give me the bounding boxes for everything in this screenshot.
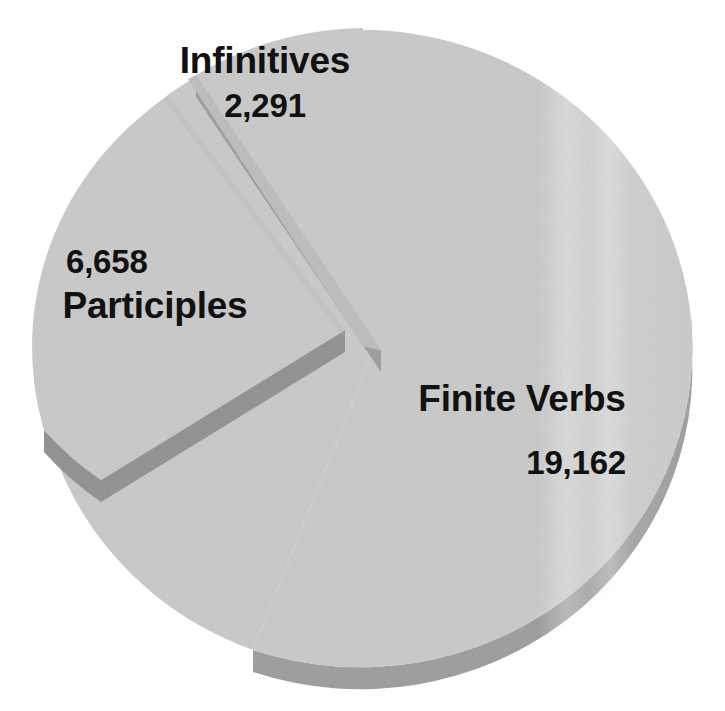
slice-label-finite-verbs-name: Finite Verbs	[400, 380, 644, 419]
slice-label-participles: 6,658 Participles	[40, 245, 270, 325]
pie-chart-graphic	[0, 0, 725, 711]
pie-chart-figure: Infinitives 2,291 6,658 Participles Fini…	[0, 0, 725, 711]
slice-label-participles-name: Participles	[40, 287, 270, 326]
slice-label-finite-verbs: Finite Verbs 19,162	[400, 380, 644, 480]
slice-label-infinitives-value: 2,291	[172, 89, 358, 124]
slice-label-infinitives-name: Infinitives	[172, 42, 358, 81]
slice-label-infinitives: Infinitives 2,291	[172, 42, 358, 123]
slice-label-finite-verbs-value: 19,162	[400, 446, 644, 481]
slice-label-participles-value: 6,658	[40, 245, 270, 280]
scan-band-artifact	[420, 20, 700, 680]
